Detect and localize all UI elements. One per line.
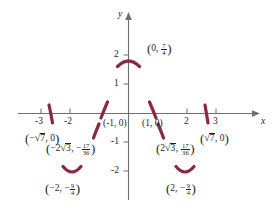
y-axis-label: y	[118, 10, 122, 20]
x-tick-label-3: 3	[213, 117, 218, 127]
fraction-nine-fourths: 94	[186, 183, 191, 197]
x-axis	[18, 110, 260, 117]
paren-close: )	[91, 141, 95, 156]
radicand: 7	[40, 133, 46, 144]
radical-seven: √7	[35, 133, 46, 144]
coord-x: 0	[151, 43, 156, 53]
graph-canvas	[0, 0, 277, 216]
y-tick-label-1: 1	[114, 79, 119, 89]
radicand: 3	[65, 143, 71, 154]
paren-open: (	[46, 141, 50, 156]
curve-root-neg-one-lower	[94, 124, 100, 138]
fraction-seven-fourths: 74	[161, 43, 166, 57]
radical-seven: √7	[204, 133, 215, 144]
curve-root-pos-sqrt7	[205, 105, 208, 123]
paren-close: )	[192, 181, 196, 196]
paren-open: (	[156, 141, 160, 156]
paren-close: )	[190, 141, 194, 156]
curve-root-neg-sqrt7	[49, 105, 53, 123]
point-label-right-root-sqrt7: (√7, 0)	[200, 132, 229, 145]
paren-open: (	[166, 181, 170, 196]
point-label-left-root-one: (-1, 0)	[103, 119, 127, 129]
y-tick-label-2: 2	[114, 50, 119, 60]
point-label-right-min: (2, −94)	[166, 182, 196, 197]
y-axis	[125, 12, 132, 200]
paren-close: )	[167, 41, 171, 56]
x-axis-label: x	[261, 117, 265, 127]
point-label-right-inflection: (2√3, 1736)	[156, 142, 195, 157]
radical-three: √3	[165, 143, 176, 154]
fraction-seventeen-thirtysixths: 1736	[181, 143, 190, 157]
x-tick-label-neg2: -2	[64, 117, 72, 127]
point-label-left-inflection: (−2√3, −1736)	[46, 142, 95, 157]
fraction-nine-fourths: 94	[70, 183, 75, 197]
paren-open: (	[45, 181, 49, 196]
fraction-seventeen-thirtysixths: 1736	[82, 143, 91, 157]
paren-close: )	[76, 181, 80, 196]
radical-three: √3	[60, 143, 71, 154]
curve-min-arc-right	[176, 167, 194, 173]
point-label-top-vertex: (0, 74)	[147, 42, 171, 57]
radicand: 7	[209, 133, 215, 144]
point-label-right-root-one: (1, 0)	[142, 119, 163, 129]
curve-root-pos-one-upper	[150, 102, 157, 118]
y-tick-label-neg2: -2	[111, 166, 119, 176]
x-tick-label-neg3: -3	[35, 117, 43, 127]
point-label-left-min: (−2, −94)	[45, 182, 80, 197]
y-tick-label-neg1: -1	[111, 137, 119, 147]
curve-min-arc-left	[63, 167, 81, 173]
paren-open: (	[25, 131, 29, 146]
radicand: 3	[170, 143, 176, 154]
x-tick-label-2: 2	[184, 117, 189, 127]
paren-close: )	[225, 131, 229, 146]
curve-root-neg-one-upper	[101, 102, 108, 118]
